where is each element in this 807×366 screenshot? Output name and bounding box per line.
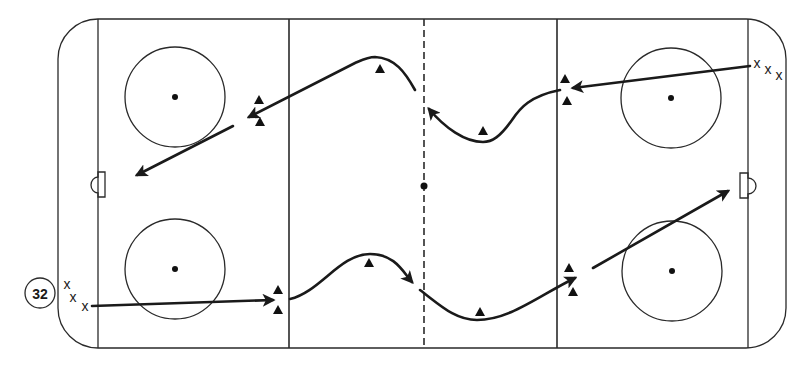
skater-x-top-right: x bbox=[776, 67, 783, 83]
skater-x-bottom-left: x bbox=[82, 298, 89, 314]
path-top-skate-through-neutral-left bbox=[249, 57, 415, 117]
path-top-shot-to-left-net bbox=[137, 126, 233, 175]
path-bottom-pass-to-blue-line bbox=[92, 300, 273, 306]
cone-triangle-icon bbox=[364, 258, 374, 267]
cone-triangle-icon bbox=[568, 287, 578, 296]
rink bbox=[58, 19, 786, 348]
path-bottom-skate-through-neutral-left bbox=[290, 254, 412, 299]
skater-x-top-right: x bbox=[754, 55, 761, 71]
cone-triangle-icon bbox=[475, 307, 485, 316]
cone-triangle-icon bbox=[375, 64, 385, 73]
path-top-skate-through-neutral-right bbox=[429, 90, 560, 142]
path-bottom-shot-to-right-net bbox=[593, 191, 728, 268]
faceoff-dot-bottom-right bbox=[669, 268, 675, 274]
cone-triangle-icon bbox=[254, 95, 264, 104]
figure-number-badge: 32 bbox=[25, 278, 55, 308]
skater-x-top-right: x bbox=[765, 61, 772, 77]
faceoff-dot-bottom-left bbox=[172, 266, 178, 272]
cone-triangle-icon bbox=[273, 285, 283, 294]
center-faceoff-dot bbox=[421, 183, 428, 190]
skater-x-bottom-left: x bbox=[70, 289, 77, 305]
cone-triangle-icon bbox=[478, 126, 488, 135]
hockey-drill-diagram: xxxxxx 32 bbox=[0, 0, 807, 366]
cone-triangle-icon bbox=[560, 74, 570, 83]
cone-triangle-icon bbox=[255, 117, 265, 126]
path-bottom-skate-through-neutral-right bbox=[420, 278, 575, 320]
cone-triangle-icon bbox=[564, 263, 574, 272]
path-top-pass-to-blue-line bbox=[573, 66, 750, 88]
faceoff-dot-top-left bbox=[172, 94, 178, 100]
cone-triangle-icon bbox=[562, 96, 572, 105]
cone-triangle-icon bbox=[273, 305, 283, 314]
figure-number: 32 bbox=[32, 286, 48, 302]
faceoff-dot-top-right bbox=[668, 95, 674, 101]
drill-paths bbox=[92, 57, 750, 320]
